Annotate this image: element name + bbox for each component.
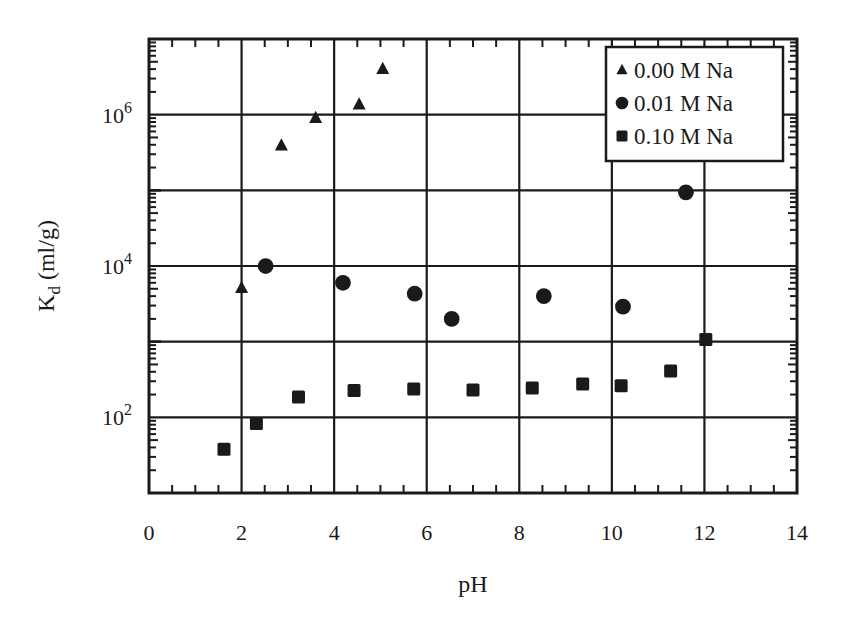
square-marker [407, 383, 420, 396]
x-tick-label: 2 [236, 520, 247, 545]
y-tick-label: 106 [102, 99, 132, 128]
triangle-marker [275, 138, 288, 150]
square-marker [217, 443, 230, 456]
circle-marker [678, 184, 694, 200]
square-marker [615, 379, 628, 392]
triangle-marker [376, 62, 389, 74]
legend-label: 0.00 M Na [634, 58, 733, 83]
scatter-chart: 02468101214 102104106 pH Kd (ml/g) 0.00 … [0, 0, 842, 625]
x-tick-label: 12 [693, 520, 715, 545]
x-axis-tick-labels: 02468101214 [144, 520, 809, 545]
circle-legend-icon [616, 97, 629, 110]
legend-item: 0.10 M Na [617, 124, 734, 149]
square-legend-icon [617, 131, 628, 142]
square-marker [699, 333, 712, 346]
square-marker [292, 390, 305, 403]
triangle-marker [309, 111, 322, 123]
circle-marker [536, 288, 552, 304]
triangle-marker [235, 281, 248, 293]
square-marker [348, 384, 361, 397]
x-tick-label: 8 [514, 520, 525, 545]
x-tick-label: 10 [601, 520, 623, 545]
legend-items: 0.00 M Na0.01 M Na0.10 M Na [616, 58, 733, 149]
circle-marker [258, 258, 274, 274]
circle-marker [407, 286, 423, 302]
series-square [217, 333, 712, 456]
legend-label: 0.10 M Na [634, 124, 733, 149]
y-tick-label: 102 [102, 401, 132, 430]
x-tick-label: 4 [329, 520, 340, 545]
circle-marker [615, 299, 631, 315]
legend-item: 0.01 M Na [616, 91, 733, 116]
y-axis-tick-labels: 102104106 [102, 99, 132, 431]
square-marker [526, 381, 539, 394]
y-axis-title: Kd (ml/g) [33, 220, 64, 312]
x-axis-title: pH [458, 571, 487, 597]
circle-marker [444, 311, 460, 327]
legend-label: 0.01 M Na [634, 91, 733, 116]
y-axis-title-units: (ml/g) [33, 220, 59, 286]
legend: 0.00 M Na0.01 M Na0.10 M Na [606, 47, 783, 161]
square-marker [467, 383, 480, 396]
x-tick-label: 6 [421, 520, 432, 545]
y-tick-label: 104 [102, 250, 132, 279]
triangle-marker [353, 97, 366, 109]
square-marker [250, 417, 263, 430]
series-circle [258, 184, 694, 326]
circle-marker [335, 275, 351, 291]
legend-item: 0.00 M Na [617, 58, 734, 83]
x-tick-label: 0 [144, 520, 155, 545]
square-marker [664, 364, 677, 377]
y-axis-title-main: K [33, 294, 59, 312]
square-marker [576, 378, 589, 391]
series-triangle [235, 62, 389, 293]
x-tick-label: 14 [786, 520, 808, 545]
